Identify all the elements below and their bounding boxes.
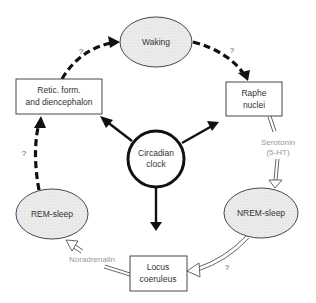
raphe-label-line2: nuclei [243,100,265,110]
retic-label-line2: and diencephalon [25,97,92,107]
uncertain-mark-waking-raphe: ? [230,46,235,55]
nrem-label: NREM-sleep [237,208,285,218]
rem-label: REM-sleep [31,209,73,219]
sleep-wake-diagram: Waking Retic. form. and diencephalon Rap… [0,0,316,303]
raphe-label-line1: Raphe [241,88,266,98]
node-rem-sleep: REM-sleep [16,189,88,239]
node-circadian-clock: Circadian clock [128,131,184,187]
node-waking: Waking [120,17,192,67]
waking-label: Waking [142,37,170,47]
node-raphe-nuclei: Raphe nuclei [226,82,282,116]
node-nrem-sleep: NREM-sleep [224,188,298,238]
locus-label-line1: Locus [147,262,170,272]
edge-clock-to-locus [150,187,162,231]
node-locus-coeruleus: Locus coeruleus [130,256,187,291]
edge-waking-to-raphe [193,42,250,81]
edge-retic-to-waking [62,36,120,79]
retic-label-line1: Retic. form. [37,85,80,95]
uncertain-mark-retic-waking: ? [79,47,84,56]
serotonin-label: Serotonin [261,138,295,147]
edge-nrem-to-locus [187,236,249,277]
uncertain-mark-nrem-locus: ? [225,263,230,272]
clock-label-line2: clock [146,159,166,169]
edge-rem-to-retic [34,116,46,190]
locus-label-line2: coeruleus [140,274,177,284]
clock-label-line1: Circadian [138,148,174,158]
noradrenalin-label: Noradrenalin [69,255,115,264]
edge-clock-to-retic [100,116,132,141]
edge-clock-to-raphe [182,121,219,143]
node-retic-form: Retic. form. and diencephalon [16,79,102,114]
uncertain-mark-rem-retic: ? [22,149,27,158]
serotonin-abbrev-label: (5-HT) [266,148,289,157]
